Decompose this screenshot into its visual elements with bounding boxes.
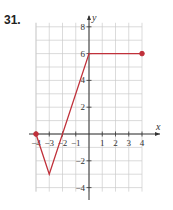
x-tick-label: 3 [127,138,132,148]
x-tick-label: 1 [100,138,105,148]
y-tick-label: 8 [81,22,86,32]
x-tick-label: −3 [44,138,54,148]
endpoint-dot [140,51,145,56]
x-tick-label: 2 [113,138,118,148]
y-axis-label: y [91,12,97,23]
endpoint-dot [34,132,39,137]
function-graph: xy−4−3−2−11234−4−22468 [0,0,173,210]
x-tick-label: −1 [71,138,81,148]
x-axis-label: x [155,121,161,132]
y-axis-arrow-icon [87,15,91,20]
x-tick-label: 4 [140,138,145,148]
y-tick-label: −4 [75,183,85,193]
y-tick-label: 2 [81,102,86,112]
y-tick-label: 6 [81,49,86,59]
y-tick-label: −2 [75,156,85,166]
x-axis-arrow-icon [155,132,160,136]
